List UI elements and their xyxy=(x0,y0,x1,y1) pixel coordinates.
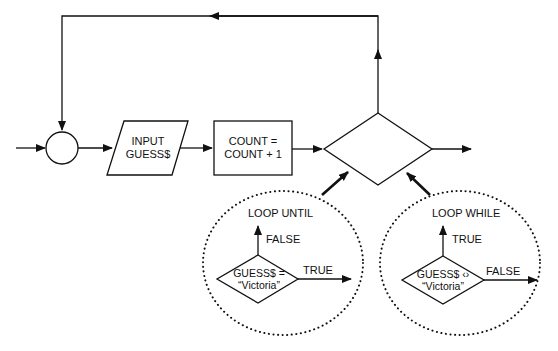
connector-circle xyxy=(46,132,78,164)
loop-until-true-label: TRUE xyxy=(303,264,333,277)
flowchart-canvas xyxy=(0,0,558,351)
loop-while-title: LOOP WHILE xyxy=(432,207,500,220)
loop-while-condition: GUESS$ ‹› “Victoria” xyxy=(406,268,480,292)
loop-until-false-label: FALSE xyxy=(266,233,300,246)
loop-while-false-label: FALSE xyxy=(486,265,520,278)
pointer-while xyxy=(407,173,430,195)
pointer-until xyxy=(322,172,348,195)
input-label: INPUT GUESS$ xyxy=(122,135,174,161)
process-label: COUNT = COUNT + 1 xyxy=(214,135,292,161)
loop-until-title: LOOP UNTIL xyxy=(248,207,313,220)
decision-diamond xyxy=(324,113,432,185)
loop-until-condition: GUESS$ = “Victoria” xyxy=(222,267,296,291)
loop-back-line xyxy=(62,16,378,130)
loop-while-true-label: TRUE xyxy=(452,233,482,246)
